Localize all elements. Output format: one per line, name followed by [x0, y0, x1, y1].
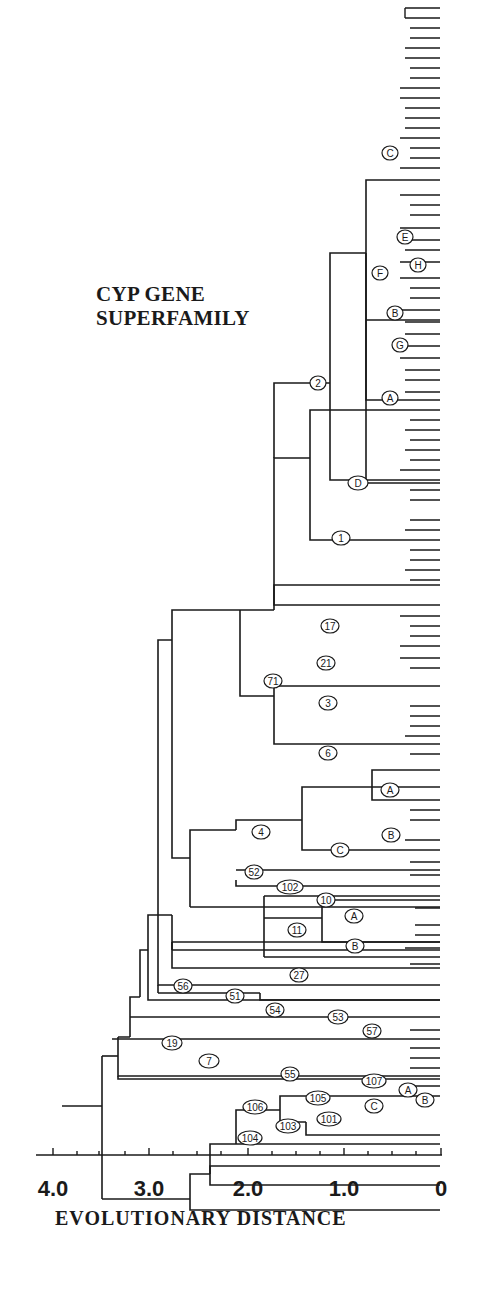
- svg-text:B: B: [352, 941, 359, 952]
- svg-text:A: A: [387, 393, 394, 404]
- label-4: 4: [252, 825, 270, 839]
- label-4-B: B: [382, 828, 400, 842]
- label-105-B: B: [416, 1093, 434, 1107]
- svg-text:E: E: [402, 232, 409, 243]
- svg-text:27: 27: [293, 970, 305, 981]
- label-4-A: A: [381, 783, 399, 797]
- svg-text:A: A: [387, 785, 394, 796]
- label-27: 27: [290, 968, 308, 982]
- svg-text:1: 1: [338, 533, 344, 544]
- tick-label-3: 3.0: [134, 1176, 165, 1202]
- label-2: 2: [310, 376, 326, 390]
- label-105: 105: [306, 1091, 330, 1105]
- label-106: 106: [243, 1100, 267, 1114]
- label-2-A: A: [382, 391, 398, 405]
- svg-text:2: 2: [315, 378, 321, 389]
- label-53: 53: [328, 1010, 348, 1024]
- tick-label-1: 1.0: [329, 1176, 360, 1202]
- svg-text:106: 106: [247, 1102, 264, 1113]
- svg-text:107: 107: [366, 1076, 383, 1087]
- label-2-C: C: [382, 146, 398, 160]
- svg-text:54: 54: [269, 1005, 281, 1016]
- svg-text:B: B: [422, 1095, 429, 1106]
- label-103: 103: [276, 1119, 300, 1133]
- label-102: 102: [277, 880, 303, 894]
- svg-text:B: B: [392, 308, 399, 319]
- svg-text:55: 55: [284, 1069, 296, 1080]
- label-105-C: C: [365, 1099, 383, 1113]
- tree-branches: [62, 180, 440, 1210]
- label-56: 56: [174, 979, 192, 993]
- svg-text:101: 101: [321, 1114, 338, 1125]
- svg-text:51: 51: [229, 991, 241, 1002]
- label-3: 3: [319, 696, 337, 710]
- svg-text:17: 17: [324, 621, 336, 632]
- label-51: 51: [226, 989, 244, 1003]
- label-4-C: C: [331, 843, 349, 857]
- label-52: 52: [245, 865, 263, 879]
- label-7: 7: [199, 1054, 219, 1068]
- tick-label-4: 4.0: [38, 1176, 69, 1202]
- svg-text:6: 6: [325, 748, 331, 759]
- label-21: 21: [317, 656, 335, 670]
- svg-text:D: D: [354, 478, 361, 489]
- label-101: 101: [317, 1112, 341, 1126]
- title-line-1: CYP GENE: [96, 282, 205, 306]
- label-6: 6: [319, 746, 337, 760]
- svg-text:3: 3: [325, 698, 331, 709]
- label-104: 104: [238, 1131, 262, 1145]
- label-57: 57: [363, 1024, 381, 1038]
- label-2-G: G: [392, 338, 408, 352]
- label-11-B: B: [346, 939, 364, 953]
- label-105-A: A: [399, 1083, 417, 1097]
- svg-text:102: 102: [282, 882, 299, 893]
- label-2-D: D: [348, 476, 368, 490]
- label-17: 17: [321, 619, 339, 633]
- svg-text:10: 10: [320, 895, 332, 906]
- label-19: 19: [162, 1036, 182, 1050]
- svg-text:F: F: [377, 268, 383, 279]
- label-71: 71: [264, 674, 282, 688]
- label-1: 1: [332, 531, 350, 545]
- label-2-E: E: [397, 230, 413, 244]
- x-axis: [36, 1148, 442, 1155]
- label-2-F: F: [372, 266, 388, 280]
- svg-text:56: 56: [177, 981, 189, 992]
- label-2-B: B: [387, 306, 403, 320]
- label-10: 10: [317, 893, 335, 907]
- label-11-A: A: [345, 909, 363, 923]
- svg-text:C: C: [370, 1101, 377, 1112]
- svg-text:G: G: [396, 340, 404, 351]
- tick-label-2: 2.0: [233, 1176, 264, 1202]
- svg-text:C: C: [386, 148, 393, 159]
- svg-text:B: B: [388, 830, 395, 841]
- svg-text:4: 4: [258, 827, 264, 838]
- svg-text:A: A: [351, 911, 358, 922]
- svg-text:57: 57: [366, 1026, 378, 1037]
- title-line-2: SUPERFAMILY: [96, 306, 250, 330]
- svg-text:11: 11: [292, 925, 303, 936]
- svg-text:104: 104: [242, 1133, 259, 1144]
- axis-title: EVOLUTIONARY DISTANCE: [55, 1207, 347, 1230]
- svg-text:C: C: [336, 845, 343, 856]
- svg-text:53: 53: [332, 1012, 344, 1023]
- leaf-tips: [400, 8, 440, 1086]
- label-55: 55: [281, 1067, 299, 1081]
- svg-text:7: 7: [206, 1056, 212, 1067]
- svg-text:71: 71: [267, 676, 279, 687]
- svg-text:21: 21: [320, 658, 332, 669]
- label-11: 11: [288, 923, 306, 937]
- figure-title: CYP GENE SUPERFAMILY: [96, 282, 250, 330]
- label-54: 54: [266, 1003, 284, 1017]
- tick-label-0: 0: [435, 1176, 447, 1202]
- label-107: 107: [362, 1074, 386, 1088]
- svg-text:A: A: [405, 1085, 412, 1096]
- label-2-H: H: [410, 258, 426, 272]
- svg-text:H: H: [414, 260, 421, 271]
- svg-text:103: 103: [280, 1121, 297, 1132]
- svg-text:19: 19: [166, 1038, 178, 1049]
- svg-text:52: 52: [248, 867, 260, 878]
- svg-text:105: 105: [310, 1093, 327, 1104]
- phylogenetic-tree: C E H F B G 2 A D 1 17 21 71 3 6 A 4 B C…: [0, 0, 480, 1291]
